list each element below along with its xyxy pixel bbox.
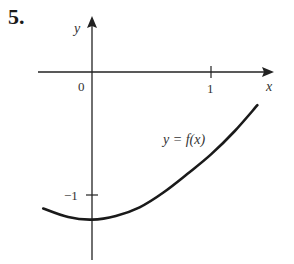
y-tick-label-neg1: −1 [64, 188, 78, 203]
y-axis-label: y [72, 21, 81, 36]
x-axis-label: x [265, 79, 273, 94]
origin-label: 0 [78, 79, 85, 94]
graph: y x 0 1 −1 y = f(x) [0, 0, 294, 264]
curve-label: y = f(x) [161, 132, 205, 148]
x-tick-label-1: 1 [207, 81, 214, 96]
